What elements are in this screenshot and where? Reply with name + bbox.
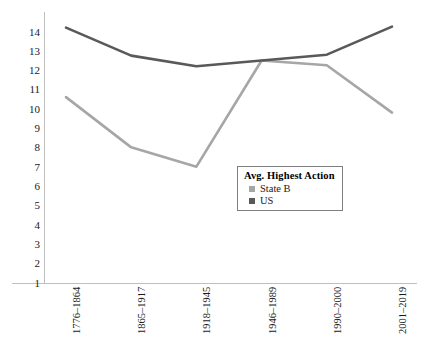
y-tick-label: 13: [18, 45, 40, 56]
y-tick-label: 12: [18, 65, 40, 76]
y-axis-tick-labels: 1413121110987654321: [16, 0, 40, 341]
chart-plot-area: [0, 0, 429, 341]
y-tick-label: 6: [18, 180, 40, 191]
y-tick-label: 4: [18, 219, 40, 230]
legend-title: Avg. Highest Action: [244, 170, 335, 181]
y-tick-label: 11: [18, 84, 40, 95]
y-tick-label: 1: [18, 277, 40, 288]
legend-swatch-us: [249, 198, 255, 204]
y-tick-label: 10: [18, 103, 40, 114]
y-tick-label: 8: [18, 142, 40, 153]
legend-label-state-b: State B: [260, 183, 291, 194]
y-tick-label: 2: [18, 258, 40, 269]
legend-swatch-state-b: [249, 186, 255, 192]
y-tick-label: 9: [18, 123, 40, 134]
y-tick-label: 5: [18, 200, 40, 211]
y-tick-label: 14: [18, 26, 40, 37]
y-tick-label: 3: [18, 238, 40, 249]
legend-label-us: US: [260, 195, 273, 206]
legend-item-us: US: [244, 195, 335, 206]
chart-background: [0, 0, 429, 341]
y-tick-label: 7: [18, 161, 40, 172]
line-chart: 1413121110987654321 1776–18641865–191719…: [0, 0, 429, 341]
legend-item-state-b: State B: [244, 183, 335, 194]
chart-legend: Avg. Highest Action State B US: [237, 166, 343, 211]
